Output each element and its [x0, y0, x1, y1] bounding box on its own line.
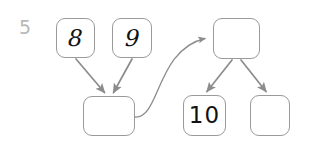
problem-number: 5	[19, 18, 31, 37]
edge-top-right-empty-to-bottom-right-empty	[241, 60, 266, 92]
node-10-label: 10	[189, 104, 220, 127]
node-10[interactable]: 10	[183, 95, 226, 136]
edge-8-to-left-empty	[76, 59, 105, 93]
edge-9-to-left-empty	[114, 59, 133, 93]
node-8-label: 8	[68, 27, 83, 50]
node-empty-top-right[interactable]	[213, 18, 260, 59]
edge-top-right-empty-to-10	[207, 60, 232, 92]
node-empty-bottom-left[interactable]	[83, 96, 135, 136]
diagram-canvas: 5 8 9 10	[0, 0, 310, 151]
node-empty-bottom-right[interactable]	[250, 95, 290, 136]
node-9-label: 9	[124, 27, 139, 50]
node-9[interactable]: 9	[112, 18, 152, 58]
node-8[interactable]: 8	[56, 18, 95, 58]
